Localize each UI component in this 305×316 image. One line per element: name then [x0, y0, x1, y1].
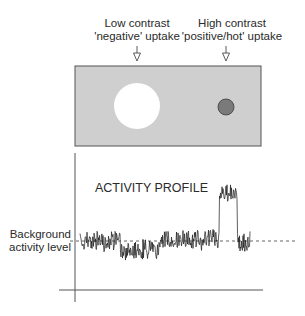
background-label-line2: activity level [9, 241, 71, 253]
low-contrast-label-line1: Low contrast [104, 17, 170, 29]
high-contrast-label-line1: High contrast [198, 17, 267, 29]
activity-profile-title: ACTIVITY PROFILE [95, 181, 208, 195]
low-contrast-label-line2: 'negative' uptake [94, 30, 180, 42]
background-label-line1: Background [10, 228, 71, 240]
down-arrow-icon [134, 46, 141, 61]
high-contrast-label-line2: 'positive/hot' uptake [182, 30, 282, 42]
activity-signal [80, 185, 250, 260]
hot-spot [218, 99, 234, 115]
uptake-diagram: Low contrast 'negative' uptake High cont… [0, 0, 305, 316]
cold-spot [114, 83, 160, 129]
down-arrow-icon [223, 46, 230, 61]
